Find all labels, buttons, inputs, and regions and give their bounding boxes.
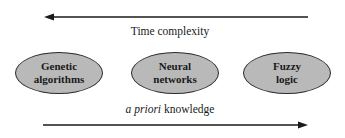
node-label-line1: Genetic bbox=[41, 60, 77, 73]
a-priori-italic-text: a priori bbox=[126, 103, 161, 115]
knowledge-text: knowledge bbox=[161, 103, 214, 115]
node-genetic-algorithms: Genetic algorithms bbox=[15, 52, 103, 94]
node-label-line1: Fuzzy bbox=[273, 60, 301, 73]
node-label-line2: algorithms bbox=[34, 73, 85, 86]
top-arrow-left-icon bbox=[44, 14, 308, 21]
a-priori-knowledge-label: a priori knowledge bbox=[126, 103, 215, 115]
bottom-arrow-right-icon bbox=[43, 122, 308, 129]
node-label-line2: networks bbox=[153, 73, 196, 86]
node-label-line2: logic bbox=[276, 73, 298, 86]
diagram: Time complexity Genetic algorithms Neura… bbox=[0, 0, 345, 138]
node-label-line1: Neural bbox=[159, 60, 191, 73]
node-neural-networks: Neural networks bbox=[131, 52, 219, 94]
time-complexity-label: Time complexity bbox=[131, 25, 209, 37]
node-fuzzy-logic: Fuzzy logic bbox=[243, 52, 331, 94]
